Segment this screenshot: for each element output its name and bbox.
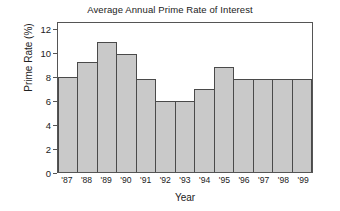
x-tick-label: '98 (274, 175, 294, 185)
x-tick-label: '99 (293, 175, 313, 185)
x-axis-ticks: '87'88'89'90'91'92'93'94'95'96'97'98'99 (57, 175, 313, 185)
y-tick-label: 10 (40, 49, 51, 59)
y-tick-mark (53, 29, 57, 30)
y-tick-label: 8 (46, 73, 51, 83)
chart-figure: Average Annual Prime Rate of Interest Pr… (0, 0, 340, 211)
plot-area (57, 22, 313, 173)
bar (233, 79, 253, 172)
x-tick-label: '91 (136, 175, 156, 185)
y-tick-label: 4 (46, 121, 51, 131)
y-tick-mark (53, 101, 57, 102)
y-tick-mark (53, 77, 57, 78)
y-tick: 0 (46, 164, 57, 182)
x-tick-label: '89 (96, 175, 116, 185)
y-tick-mark (53, 149, 57, 150)
chart-title: Average Annual Prime Rate of Interest (0, 4, 340, 15)
x-tick-label: '95 (215, 175, 235, 185)
y-tick-label: 12 (40, 25, 51, 35)
bar (292, 79, 312, 172)
bar (272, 79, 292, 172)
bar (214, 67, 234, 172)
bar (77, 62, 97, 172)
y-tick-mark (53, 53, 57, 54)
y-tick-label: 0 (46, 169, 51, 179)
bar (136, 79, 156, 172)
y-tick: 10 (40, 44, 57, 62)
y-tick: 4 (46, 116, 57, 134)
bar (116, 54, 136, 172)
bar (253, 79, 273, 172)
y-tick: 8 (46, 68, 57, 86)
bar (175, 101, 195, 172)
bar (58, 77, 78, 172)
bar (155, 101, 175, 172)
y-axis-label: Prime Rate (%) (23, 0, 34, 128)
y-tick-label: 6 (46, 97, 51, 107)
x-tick-label: '96 (234, 175, 254, 185)
x-tick-label: '93 (175, 175, 195, 185)
bar-series (58, 23, 312, 172)
bar (97, 42, 117, 172)
bar (194, 89, 214, 172)
x-tick-label: '94 (195, 175, 215, 185)
y-tick: 6 (46, 92, 57, 110)
x-tick-label: '87 (57, 175, 77, 185)
x-tick-label: '92 (155, 175, 175, 185)
x-tick-label: '90 (116, 175, 136, 185)
x-tick-label: '88 (77, 175, 97, 185)
x-axis-label: Year (57, 192, 313, 203)
y-tick-mark (53, 125, 57, 126)
y-tick-label: 2 (46, 145, 51, 155)
x-tick-label: '97 (254, 175, 274, 185)
y-tick: 12 (40, 20, 57, 38)
y-tick: 2 (46, 140, 57, 158)
